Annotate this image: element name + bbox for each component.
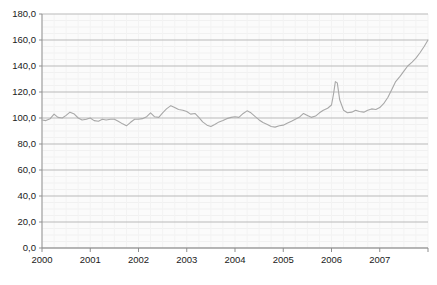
x-tick-label: 2002 [128,254,149,265]
y-tick-label: 120,0 [12,86,36,97]
x-tick-label: 2003 [176,254,197,265]
y-tick-label: 40,0 [18,190,37,201]
x-tick-label: 2004 [224,254,245,265]
y-tick-label: 100,0 [12,112,36,123]
y-tick-labels: 0,020,040,060,080,0100,0120,0140,0160,01… [12,8,36,253]
y-tick-label: 60,0 [18,164,37,175]
y-tick-label: 180,0 [12,8,36,19]
x-tick-label: 2000 [31,254,52,265]
y-tick-label: 20,0 [18,216,37,227]
y-tick-label: 140,0 [12,60,36,71]
y-axis [39,14,42,248]
x-tick-label: 2001 [80,254,101,265]
x-tick-label: 2007 [369,254,390,265]
y-tick-label: 80,0 [18,138,37,149]
y-tick-label: 0,0 [23,242,36,253]
x-axis [42,248,428,252]
line-chart: 0,020,040,060,080,0100,0120,0140,0160,01… [0,0,437,285]
x-tick-labels: 20002001200220032004200520062007 [31,254,390,265]
y-tick-label: 160,0 [12,34,36,45]
x-tick-label: 2006 [321,254,342,265]
x-tick-label: 2005 [273,254,294,265]
chart-canvas: 0,020,040,060,080,0100,0120,0140,0160,01… [0,0,437,285]
